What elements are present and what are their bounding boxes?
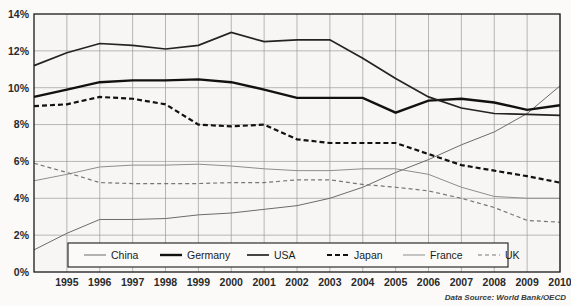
- legend-label-china: China: [111, 249, 139, 261]
- x-tick-label: 2004: [351, 276, 375, 288]
- legend-label-france: France: [430, 249, 463, 261]
- y-tick-label: 12%: [8, 45, 30, 57]
- x-tick-label: 2009: [515, 276, 539, 288]
- line-chart: 0%2%4%6%8%10%12%14% 19951996199719981999…: [0, 0, 571, 306]
- x-tick-label: 1996: [88, 276, 112, 288]
- x-tick-label: 2000: [220, 276, 244, 288]
- y-tick-label: 2%: [14, 229, 30, 241]
- x-tick-label: 2008: [483, 276, 507, 288]
- legend-label-uk: UK: [505, 249, 520, 261]
- y-tick-label: 14%: [8, 8, 30, 20]
- y-tick-label: 8%: [14, 118, 30, 130]
- x-tick-label: 2010: [548, 276, 571, 288]
- y-tick-label: 6%: [14, 155, 30, 167]
- y-tick-label: 4%: [14, 192, 30, 204]
- x-tick-label: 2003: [318, 276, 342, 288]
- legend-label-germany: Germany: [187, 249, 231, 261]
- legend-label-usa: USA: [274, 249, 296, 261]
- chart-legend: ChinaGermanyUSAJapanFranceUK: [68, 243, 520, 267]
- x-tick-label: 1997: [121, 276, 145, 288]
- y-tick-label: 0%: [14, 266, 30, 278]
- x-tick-label: 1999: [187, 276, 211, 288]
- x-tick-label: 2002: [285, 276, 309, 288]
- x-tick-label: 2005: [384, 276, 408, 288]
- x-tick-label: 1995: [55, 276, 79, 288]
- chart-container: 0%2%4%6%8%10%12%14% 19951996199719981999…: [0, 0, 571, 306]
- x-tick-label: 2007: [450, 276, 474, 288]
- y-tick-label: 10%: [8, 82, 30, 94]
- x-tick-label: 1998: [154, 276, 178, 288]
- legend-label-japan: Japan: [354, 249, 383, 261]
- source-caption: Data Source: World Bank/OECD: [445, 293, 566, 302]
- x-tick-label: 2001: [252, 276, 276, 288]
- x-tick-label: 2006: [417, 276, 441, 288]
